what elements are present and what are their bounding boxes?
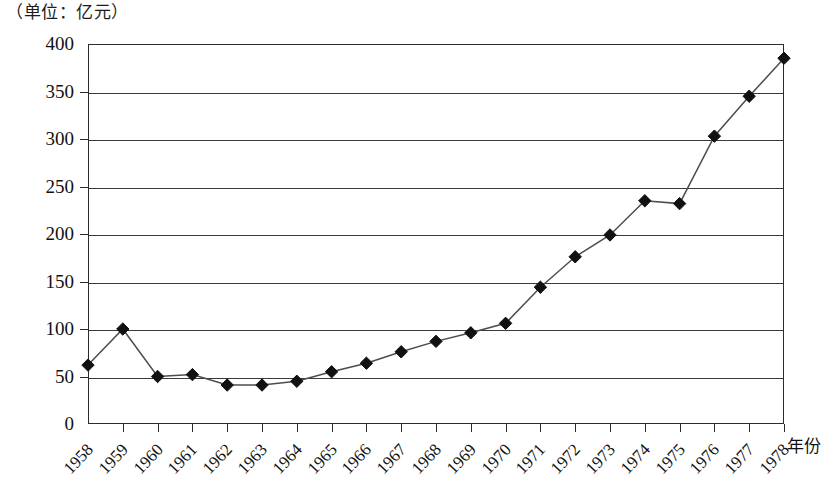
y-axis-tick-label: 300 — [0, 129, 74, 148]
gridline — [89, 140, 783, 141]
x-axis-tick — [610, 424, 611, 432]
y-axis-tick — [80, 234, 88, 235]
y-axis-tick — [80, 329, 88, 330]
y-axis-tick-label: 0 — [0, 414, 74, 433]
y-axis-tick — [80, 377, 88, 378]
x-axis-tick — [227, 424, 228, 432]
x-axis-tick — [401, 424, 402, 432]
x-axis-tick — [123, 424, 124, 432]
x-axis-tick — [784, 424, 785, 432]
gridline — [89, 235, 783, 236]
gridline — [89, 378, 783, 379]
x-axis-tick — [192, 424, 193, 432]
x-axis-title: 年份 — [787, 437, 821, 456]
gridline — [89, 93, 783, 94]
plot-area — [88, 44, 784, 424]
y-axis-tick — [80, 187, 88, 188]
x-axis-tick — [575, 424, 576, 432]
x-axis-tick — [645, 424, 646, 432]
x-axis-tick — [158, 424, 159, 432]
y-axis-tick-label: 250 — [0, 177, 74, 196]
x-axis-tick-label: 1978 — [750, 441, 792, 478]
y-axis-tick — [80, 282, 88, 283]
gridline — [89, 330, 783, 331]
y-axis-tick — [80, 139, 88, 140]
x-axis-tick — [332, 424, 333, 432]
x-axis-tick — [506, 424, 507, 432]
gridline — [89, 188, 783, 189]
y-axis-tick-label: 150 — [0, 272, 74, 291]
x-axis-tick — [366, 424, 367, 432]
y-axis-tick-label: 50 — [0, 367, 74, 386]
y-axis-tick — [80, 92, 88, 93]
x-axis-tick — [540, 424, 541, 432]
x-axis-tick — [436, 424, 437, 432]
x-axis-tick — [297, 424, 298, 432]
x-axis-tick — [680, 424, 681, 432]
x-axis-tick — [471, 424, 472, 432]
gridline — [89, 283, 783, 284]
y-axis-tick-label: 200 — [0, 224, 74, 243]
unit-caption: （单位：亿元） — [6, 2, 129, 24]
y-axis-tick-label: 400 — [0, 34, 74, 53]
x-axis-tick — [749, 424, 750, 432]
x-axis-tick — [262, 424, 263, 432]
y-axis-tick-label: 100 — [0, 319, 74, 338]
x-axis-tick — [714, 424, 715, 432]
y-axis-tick-label: 350 — [0, 82, 74, 101]
